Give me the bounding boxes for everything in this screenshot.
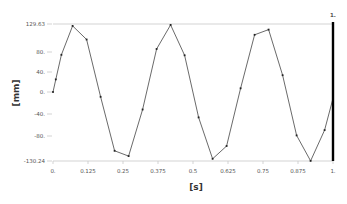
data-point-marker [86, 39, 88, 41]
y-axis-title: [mm] [11, 80, 21, 107]
y-tick-label: 40. [36, 69, 45, 75]
data-point-marker [226, 145, 228, 147]
data-point-marker [282, 74, 284, 76]
data-point-marker [254, 34, 256, 36]
y-tick-label: -130.24 [24, 158, 46, 164]
x-tick-label: 0.375 [150, 168, 166, 174]
x-tick-label: 1. [330, 168, 335, 174]
data-series-line [53, 25, 333, 161]
data-point-marker [310, 160, 312, 162]
x-tick-label: 0.125 [80, 168, 96, 174]
data-point-marker [55, 79, 57, 81]
data-point-marker [324, 129, 326, 131]
data-point-marker [142, 109, 144, 111]
data-point-marker [268, 29, 270, 31]
data-point-marker [212, 158, 214, 160]
plot-area: 0.0.1250.250.3750.50.6250.750.8751. 129.… [24, 12, 336, 174]
data-point-marker [114, 150, 116, 152]
cursor-label: 1. [330, 12, 336, 18]
data-point-marker [296, 135, 298, 137]
data-point-marker [61, 54, 63, 56]
y-axis-ticks: 129.6380.40.0.-40.-80.-130.24 [24, 21, 52, 164]
y-tick-label: 0. [40, 89, 45, 95]
x-axis-title: [s] [189, 182, 203, 192]
data-point-marker [184, 54, 186, 56]
x-tick-label: 0.875 [290, 168, 306, 174]
line-chart: 0.0.1250.250.3750.50.6250.750.8751. 129.… [0, 0, 347, 204]
data-point-marker [198, 117, 200, 119]
y-tick-label: 129.63 [26, 21, 46, 27]
data-point-marker [100, 96, 102, 98]
data-point-marker [52, 91, 54, 93]
data-point-marker [72, 25, 74, 27]
x-tick-label: 0. [50, 168, 55, 174]
y-tick-label: 80. [36, 49, 45, 55]
data-point-marker [128, 155, 130, 157]
y-tick-label: -40. [34, 111, 45, 117]
y-tick-label: -80. [34, 133, 45, 139]
x-axis-ticks: 0.0.1250.250.3750.50.6250.750.8751. [50, 161, 335, 174]
data-point-marker [156, 48, 158, 50]
x-tick-label: 0.75 [257, 168, 270, 174]
x-tick-label: 0.5 [189, 168, 198, 174]
data-point-marker [240, 87, 242, 89]
x-tick-label: 0.625 [220, 168, 236, 174]
x-tick-label: 0.25 [117, 168, 130, 174]
data-point-marker [170, 24, 172, 26]
